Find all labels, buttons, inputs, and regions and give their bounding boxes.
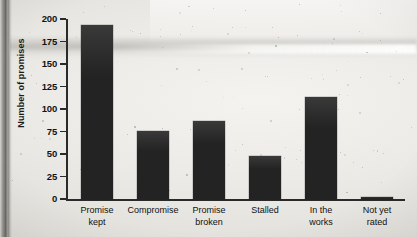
chart-screenshot: Number of promises 200175150125100755025… — [0, 0, 417, 237]
page-vignette — [0, 0, 417, 237]
